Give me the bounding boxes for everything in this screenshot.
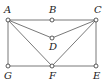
point-E bbox=[94, 64, 98, 68]
point-D bbox=[50, 36, 54, 40]
labels: ABCDGFE bbox=[3, 4, 102, 81]
point-label-B: B bbox=[48, 4, 56, 15]
segment-FC bbox=[52, 20, 96, 66]
point-B bbox=[50, 18, 54, 22]
point-C bbox=[94, 18, 98, 22]
point-label-C: C bbox=[94, 4, 102, 15]
point-label-A: A bbox=[3, 4, 11, 15]
diagram-canvas: ABCDGFE bbox=[0, 0, 111, 82]
point-label-G: G bbox=[4, 70, 12, 81]
point-G bbox=[6, 64, 10, 68]
point-label-D: D bbox=[48, 41, 57, 52]
point-label-F: F bbox=[48, 70, 57, 81]
segment-AF bbox=[8, 20, 52, 66]
point-F bbox=[50, 64, 54, 68]
segment-AD bbox=[8, 20, 52, 38]
geometry-diagram: ABCDGFE bbox=[0, 0, 111, 82]
point-label-E: E bbox=[92, 70, 101, 81]
segment-DC bbox=[52, 20, 96, 38]
point-A bbox=[6, 18, 10, 22]
